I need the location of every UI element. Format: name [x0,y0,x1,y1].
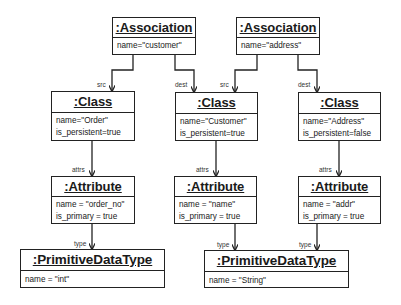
class-customer: :Class name="Customer" is_persistent=tru… [175,92,258,141]
object-attr: name="Customer" [180,116,253,128]
edge-label-type: type [217,241,229,249]
object-attr: name="customer" [117,40,191,52]
edge-label-attrs: attrs [72,166,85,174]
class-address: :Class name="Address" is_persistent=fals… [298,92,381,141]
object-title: :Attribute [52,177,134,197]
association-address: :Association name="address" [236,17,320,55]
object-attr: name="Order" [56,115,130,127]
object-attr: is_persistent=false [303,128,376,140]
object-attr: name = "order_no" [56,199,130,211]
edge-label-dest: dest [175,81,187,89]
edge-label-type: type [299,241,311,249]
object-attr: is_persistent=true [56,127,130,139]
object-attr: name = "name" [179,199,252,211]
object-title: :Class [176,93,257,114]
object-title: :Association [237,18,319,38]
edge-assoc1-src [112,54,133,91]
attribute-order-no: :Attribute name = "order_no" is_primary … [51,176,135,224]
edge-label-dest: dest [298,81,310,89]
object-title: :PrimitiveDataType [21,250,164,271]
edge-label-src: src [97,81,106,89]
class-order: :Class name="Order" is_persistent=true [51,91,135,141]
object-attr: name = "int" [25,274,160,286]
object-attr: is_primary = true [179,211,252,223]
object-attr: name = "String" [209,275,344,287]
attribute-name: :Attribute name = "name" is_primary = tr… [174,176,257,224]
object-title: :Attribute [299,177,380,197]
object-title: :PrimitiveDataType [205,251,348,272]
association-customer: :Association name="customer" [112,17,196,55]
object-attr: name="address" [241,40,315,52]
object-attr: is_persistent=true [180,128,253,140]
edge-label-type: type [74,240,86,248]
primitive-type-int: :PrimitiveDataType name = "int" [20,249,165,288]
object-title: :Association [113,18,195,38]
object-attr: name = "addr" [303,199,376,211]
object-attr: name="Address" [303,116,376,128]
object-title: :Class [299,93,380,114]
attribute-addr: :Attribute name = "addr" is_primary = tr… [298,176,381,224]
edge-assoc2-src [235,54,257,92]
edge-label-attrs: attrs [196,166,209,174]
object-title: :Attribute [175,177,256,197]
edge-label-src: src [220,81,229,89]
object-title: :Class [52,92,134,113]
edge-label-attrs: attrs [319,166,332,174]
object-attr: is_primary = true [303,211,376,223]
object-attr: is_primary = true [56,211,130,223]
primitive-type-string: :PrimitiveDataType name = "String" [204,250,349,288]
